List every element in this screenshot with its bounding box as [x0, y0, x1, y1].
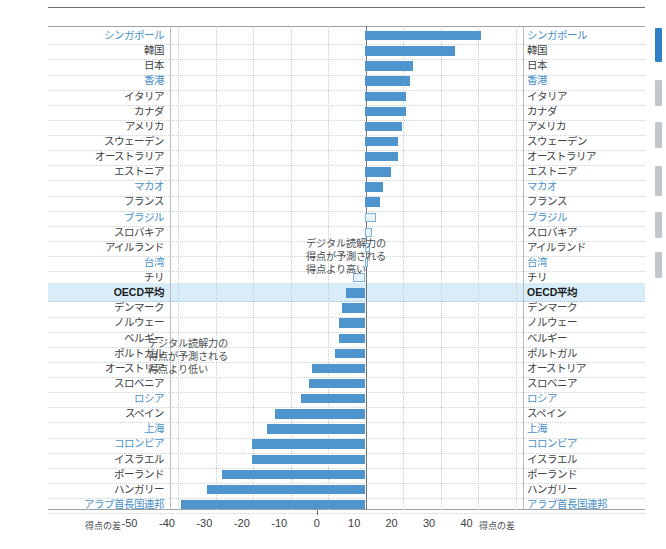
scrollbar-minimap[interactable] — [652, 0, 666, 549]
bar — [365, 107, 406, 116]
bar — [365, 182, 384, 191]
gridline--40 — [216, 26, 217, 510]
x-tick-label: 0 — [314, 517, 320, 529]
x-tick-label: 30 — [423, 517, 435, 529]
x-tick-label: -50 — [122, 517, 138, 529]
axis-caption-right: 得点の差 — [479, 519, 515, 532]
minimap-marker[interactable] — [655, 122, 662, 148]
bar — [365, 46, 455, 55]
x-tick-0 — [317, 510, 318, 515]
bar — [339, 318, 365, 327]
bar — [267, 424, 364, 433]
bar — [301, 394, 365, 403]
bar — [339, 334, 365, 343]
gridline--30 — [253, 26, 254, 510]
minimap-marker[interactable] — [655, 212, 662, 238]
annotation-lower: デジタル読解力の得点が予測される得点より低い — [148, 337, 228, 377]
bar — [365, 228, 372, 237]
axis-caption-left: 得点の差 — [85, 519, 121, 532]
bar — [335, 349, 365, 358]
x-tick-label: -30 — [196, 517, 212, 529]
bar — [207, 485, 364, 494]
bar — [222, 470, 364, 479]
gridline-30 — [478, 26, 479, 510]
bar — [365, 197, 380, 206]
bar-chart: シンガポールシンガポール韓国韓国日本日本香港香港イタリアイタリアカナダカナダアメ… — [48, 26, 645, 510]
bar — [275, 409, 365, 418]
x-axis: -50-40-30-20-10010203040得点の差得点の差 — [48, 510, 645, 540]
bar — [365, 152, 399, 161]
minimap-marker[interactable] — [655, 166, 662, 196]
bar — [365, 92, 406, 101]
bar — [346, 288, 365, 297]
x-tick-label: 40 — [460, 517, 472, 529]
bar — [252, 455, 364, 464]
bar — [365, 213, 376, 222]
gridline--50 — [178, 26, 179, 510]
minimap-marker[interactable] — [655, 80, 662, 106]
header-divider — [48, 7, 645, 8]
gridline--20 — [291, 26, 292, 510]
bar — [365, 122, 402, 131]
chart-page: シンガポールシンガポール韓国韓国日本日本香港香港イタリアイタリアカナダカナダアメ… — [0, 0, 666, 549]
gridline-40 — [516, 26, 517, 510]
annotation-higher: デジタル読解力の得点が予測される得点より高い — [306, 237, 386, 277]
x-tick-label: -40 — [159, 517, 175, 529]
bar — [365, 76, 410, 85]
x-tick-label: -20 — [234, 517, 250, 529]
bar — [365, 137, 399, 146]
bar — [309, 379, 365, 388]
x-tick-label: 20 — [385, 517, 397, 529]
x-tick-label: 10 — [348, 517, 360, 529]
minimap-marker-current[interactable] — [655, 28, 662, 62]
bar — [365, 31, 481, 40]
x-tick-label: -10 — [271, 517, 287, 529]
bar — [365, 61, 414, 70]
minimap-marker[interactable] — [655, 252, 662, 278]
bar — [252, 439, 364, 448]
bar — [181, 500, 364, 509]
bar — [312, 364, 364, 373]
bar — [365, 167, 391, 176]
bar — [342, 303, 364, 312]
gridline-20 — [441, 26, 442, 510]
